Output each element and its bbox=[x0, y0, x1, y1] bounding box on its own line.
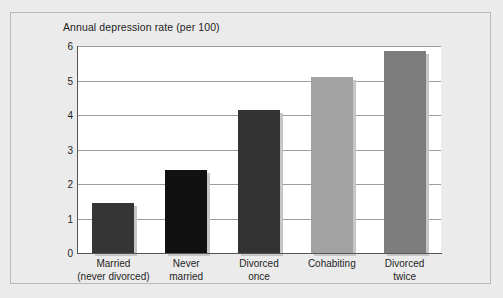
y-tick-label-5: 5 bbox=[57, 75, 73, 86]
y-tick-label-3: 3 bbox=[57, 144, 73, 155]
x-axis-label-line: once bbox=[211, 270, 308, 283]
bar-slot bbox=[238, 46, 280, 253]
bar-slot bbox=[311, 46, 353, 253]
bar[interactable] bbox=[238, 110, 280, 253]
x-axis-line bbox=[77, 253, 442, 254]
bar[interactable] bbox=[311, 77, 353, 253]
y-axis-line bbox=[77, 46, 78, 254]
y-axis-tick-labels: 0123456 bbox=[53, 46, 73, 253]
y-tick-label-6: 6 bbox=[57, 41, 73, 52]
bar[interactable] bbox=[92, 203, 134, 253]
y-tick-label-4: 4 bbox=[57, 110, 73, 121]
y-tick-label-1: 1 bbox=[57, 213, 73, 224]
bar-slot bbox=[92, 46, 134, 253]
bar[interactable] bbox=[165, 170, 207, 253]
bar[interactable] bbox=[384, 51, 426, 253]
bar-slot bbox=[165, 46, 207, 253]
x-axis-label: Divorcedtwice bbox=[356, 257, 453, 283]
y-tick-label-2: 2 bbox=[57, 179, 73, 190]
x-axis-label-line: Divorced bbox=[356, 257, 453, 270]
chart-figure: Annual depression rate (per 100) 0123456… bbox=[10, 12, 491, 284]
x-axis-category-labels: Married(never divorced)NevermarriedDivor… bbox=[77, 257, 442, 298]
bar-slot bbox=[384, 46, 426, 253]
x-axis-label-line: twice bbox=[356, 270, 453, 283]
chart-title: Annual depression rate (per 100) bbox=[63, 21, 220, 33]
plot-area bbox=[77, 46, 441, 253]
